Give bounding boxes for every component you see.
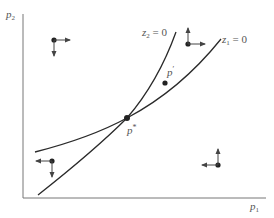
direction-marker-bottom-right xyxy=(202,149,221,168)
x-axis-label: p1 xyxy=(250,201,259,214)
curve-z2-zero xyxy=(38,32,176,195)
p-prime-label-sup: ′ xyxy=(173,65,175,74)
phase-diagram: p2 p1 z2 = 0 z1 = 0 p* p′ xyxy=(0,0,274,218)
p-prime-label: p′ xyxy=(167,66,174,78)
equilibrium-point-dot xyxy=(124,115,130,121)
direction-marker-bottom-left xyxy=(36,158,55,177)
curve-z2-label: z2 = 0 xyxy=(142,27,167,40)
y-axis-label-sub: 2 xyxy=(12,14,16,22)
p-star-label: p* xyxy=(127,124,137,136)
curve-z2-label-rest: = 0 xyxy=(150,26,167,38)
p-prime-dot xyxy=(162,80,167,85)
curve-z1-label: z1 = 0 xyxy=(222,34,247,47)
x-axis-label-sub: 1 xyxy=(256,206,260,214)
y-axis-label: p2 xyxy=(6,9,15,22)
direction-marker-top-left xyxy=(51,37,70,56)
p-star-label-sup: * xyxy=(133,123,137,132)
curve-z1-label-rest: = 0 xyxy=(230,33,247,45)
direction-marker-top-right xyxy=(185,28,205,47)
